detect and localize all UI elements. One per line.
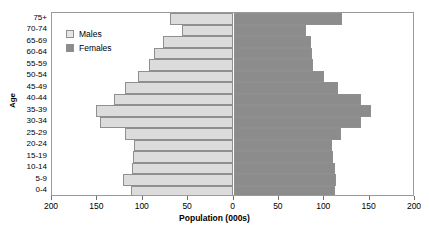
y-axis-label-50-54: 50-54	[27, 71, 47, 79]
pyramid-row	[52, 71, 413, 83]
x-tick-label: 50	[273, 201, 282, 211]
bar-females-75+	[234, 13, 343, 25]
bar-females-60-64	[234, 48, 313, 60]
bar-males-20-24	[134, 140, 234, 152]
legend-label: Females	[79, 44, 112, 53]
bar-females-50-54	[234, 71, 325, 83]
y-axis-label-35-39: 35-39	[27, 106, 47, 114]
bar-females-5-9	[234, 174, 337, 186]
y-axis-label-0-4: 0-4	[35, 186, 47, 194]
y-axis-label-70-74: 70-74	[27, 25, 47, 33]
pyramid-row	[52, 151, 413, 163]
bar-males-15-19	[133, 151, 234, 163]
x-tick-label: 150	[89, 201, 103, 211]
bar-females-30-34	[234, 117, 361, 129]
x-tick-mark	[369, 196, 370, 200]
x-tick-label: 200	[407, 201, 421, 211]
bar-males-5-9	[123, 174, 234, 186]
bar-females-10-14	[234, 163, 336, 175]
bar-females-0-4	[234, 186, 336, 197]
bar-males-70-74	[182, 25, 234, 37]
x-tick-label: 150	[362, 201, 376, 211]
y-axis-label-75+: 75+	[33, 14, 47, 22]
pyramid-row	[52, 105, 413, 117]
x-tick-label: 50	[182, 201, 191, 211]
y-axis-label-60-64: 60-64	[27, 48, 47, 56]
legend-swatch-female	[66, 44, 74, 52]
x-tick-mark	[142, 196, 143, 200]
y-axis-label-55-59: 55-59	[27, 60, 47, 68]
chart-legend: MalesFemales	[66, 28, 112, 56]
bar-males-55-59	[149, 59, 233, 71]
bar-females-35-39	[234, 105, 372, 117]
bar-males-25-29	[125, 128, 234, 140]
y-axis-labels: 75+70-7465-6960-6455-5950-5445-4940-4435…	[0, 12, 47, 196]
bar-males-40-44	[114, 94, 234, 106]
bar-males-35-39	[96, 105, 234, 117]
pyramid-row	[52, 128, 413, 140]
x-axis-ticks: 20015010050050100150200	[51, 196, 414, 212]
pyramid-row	[52, 13, 413, 25]
x-tick-label: 0	[230, 201, 235, 211]
y-axis-label-15-19: 15-19	[27, 152, 47, 160]
bar-females-65-69	[234, 36, 311, 48]
x-axis-title: Population (000s)	[0, 213, 429, 223]
pyramid-row	[52, 140, 413, 152]
bar-males-30-34	[100, 117, 233, 129]
y-axis-label-25-29: 25-29	[27, 129, 47, 137]
y-axis-label-45-49: 45-49	[27, 83, 47, 91]
pyramid-row	[52, 59, 413, 71]
bar-males-45-49	[125, 82, 234, 94]
y-axis-label-10-14: 10-14	[27, 163, 47, 171]
pyramid-row	[52, 82, 413, 94]
bar-females-15-19	[234, 151, 334, 163]
x-tick-label: 200	[44, 201, 58, 211]
pyramid-row	[52, 174, 413, 186]
bar-females-20-24	[234, 140, 332, 152]
y-axis-label-5-9: 5-9	[35, 175, 47, 183]
bar-males-65-69	[163, 36, 234, 48]
bar-males-10-14	[132, 163, 234, 175]
x-tick-mark	[51, 196, 52, 200]
bar-males-60-64	[154, 48, 234, 60]
population-pyramid-chart: Age 75+70-7465-6960-6455-5950-5445-4940-…	[0, 0, 429, 238]
legend-entry-females: Females	[66, 42, 112, 54]
bar-females-70-74	[234, 25, 307, 37]
y-axis-label-20-24: 20-24	[27, 140, 47, 148]
x-tick-mark	[278, 196, 279, 200]
x-tick-mark	[96, 196, 97, 200]
bar-males-50-54	[138, 71, 233, 83]
y-axis-label-40-44: 40-44	[27, 94, 47, 102]
bar-males-0-4	[131, 186, 234, 197]
legend-swatch-male	[66, 30, 74, 38]
bar-females-25-29	[234, 128, 341, 140]
bar-females-40-44	[234, 94, 361, 106]
pyramid-row	[52, 186, 413, 197]
bar-males-75+	[170, 13, 234, 25]
pyramid-row	[52, 94, 413, 106]
pyramid-row	[52, 163, 413, 175]
y-axis-label-30-34: 30-34	[27, 117, 47, 125]
x-tick-mark	[414, 196, 415, 200]
x-tick-label: 100	[135, 201, 149, 211]
pyramid-row	[52, 117, 413, 129]
x-tick-mark	[323, 196, 324, 200]
x-tick-mark	[187, 196, 188, 200]
legend-label: Males	[79, 30, 102, 39]
y-axis-label-65-69: 65-69	[27, 37, 47, 45]
x-tick-mark	[233, 196, 234, 200]
bar-females-45-49	[234, 82, 338, 94]
bar-females-55-59	[234, 59, 314, 71]
legend-entry-males: Males	[66, 28, 112, 40]
x-tick-label: 100	[316, 201, 330, 211]
